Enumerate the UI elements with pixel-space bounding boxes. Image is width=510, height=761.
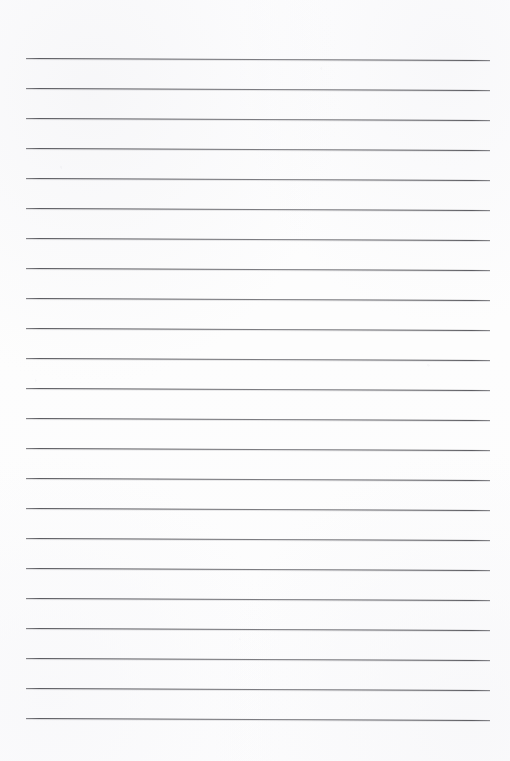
ruled-line: [26, 478, 490, 481]
ruled-line: [26, 508, 490, 511]
ruled-line-group: [0, 0, 510, 761]
ruled-line: [26, 718, 490, 721]
ruled-line: [26, 628, 490, 631]
ruled-line: [26, 58, 490, 61]
ruled-line: [26, 688, 490, 691]
ruled-line: [26, 88, 490, 91]
ruled-line: [26, 658, 490, 661]
ruled-line: [26, 208, 490, 211]
ruled-line: [26, 598, 490, 601]
ruled-line: [26, 388, 490, 391]
ruled-line: [26, 298, 490, 301]
ruled-line: [26, 328, 490, 331]
ruled-line: [26, 178, 490, 181]
ruled-line: [26, 238, 490, 241]
ruled-line: [26, 148, 490, 151]
ruled-line: [26, 538, 490, 541]
lined-paper-page: [0, 0, 510, 761]
ruled-line: [26, 448, 490, 451]
ruled-line: [26, 268, 490, 271]
ruled-line: [26, 568, 490, 571]
ruled-line: [26, 418, 490, 421]
ruled-line: [26, 358, 490, 361]
ruled-line: [26, 118, 490, 121]
